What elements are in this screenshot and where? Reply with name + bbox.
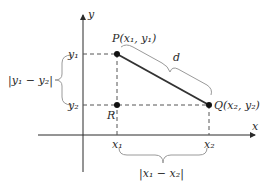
brace-vertical <box>55 55 72 105</box>
y-axis-label: y <box>87 8 95 21</box>
tick-x1: x₁ <box>112 138 123 151</box>
point-p-label: P(x₁, y₁) <box>111 32 156 45</box>
distance-diagram: x y d |y₁ − y₂| |x₁ − x₂| P(x₁, y₁) Q(x₂… <box>0 0 269 188</box>
horizontal-brace-label: |x₁ − x₂| <box>139 167 184 181</box>
tick-y2: y₂ <box>67 99 79 112</box>
point-r <box>114 102 120 108</box>
x-axis-label: x <box>252 120 259 133</box>
segment-pq <box>117 54 209 105</box>
point-r-label: R <box>106 109 115 122</box>
brace-horizontal <box>119 148 207 163</box>
point-q-label: Q(x₂, y₂) <box>214 99 260 112</box>
distance-label: d <box>173 51 180 64</box>
point-q <box>206 102 212 108</box>
tick-y1: y₁ <box>67 48 79 61</box>
brace-d <box>121 45 212 95</box>
vertical-brace-label: |y₁ − y₂| <box>8 74 53 88</box>
point-p <box>114 51 120 57</box>
tick-x2: x₂ <box>204 138 215 151</box>
